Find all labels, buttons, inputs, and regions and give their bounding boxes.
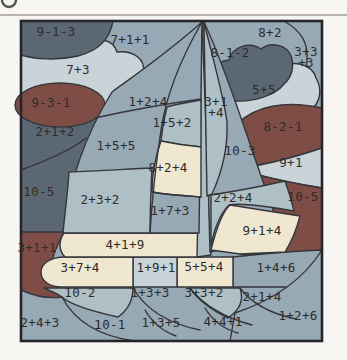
region-label-2+3+2: 2+3+2 — [80, 192, 119, 207]
region-label-1+2+6: 1+2+6 — [278, 308, 317, 323]
region-label-9+1+4: 9+1+4 — [242, 223, 281, 238]
page-badge-icon — [2, 0, 16, 7]
region-label-1+5+5: 1+5+5 — [96, 138, 135, 153]
region-label-3+7+4: 3+7+4 — [60, 260, 99, 275]
region-label-3+3+2: 3+3+2 — [184, 285, 223, 300]
region-label-10-2: 10-2 — [64, 285, 95, 300]
region-label-10-1: 10-1 — [94, 317, 125, 332]
region-label-2+1+4: 2+1+4 — [242, 289, 281, 304]
region-label-1+3+3: 1+3+3 — [130, 285, 169, 300]
region-label-7+3: 7+3 — [66, 62, 89, 77]
region-label-10-5: 10-5 — [23, 184, 54, 199]
region-label-4+1+9: 4+1+9 — [105, 237, 144, 252]
region-label-9-3-1: 9-3-1 — [31, 95, 70, 110]
region-label-1+5+2: 1+5+2 — [152, 115, 191, 130]
region-label-8+2: 8+2 — [258, 25, 281, 40]
region-label-5+5+4: 5+5+4 — [184, 259, 223, 274]
region-label-1+3+5: 1+3+5 — [141, 315, 180, 330]
region-label-1+7+3: 1+7+3 — [150, 203, 189, 218]
region-label-10-5: 10-5 — [287, 189, 318, 204]
region-label-8-2-1: 8-2-1 — [263, 119, 302, 134]
region-label-1+4+6: 1+4+6 — [256, 260, 295, 275]
region-label-2+2+4: 2+2+4 — [213, 190, 252, 205]
region-label-8-1-2: 8-1-2 — [210, 45, 249, 60]
region-label-3+1+1: 3+1+1 — [17, 240, 56, 255]
region-label-9+1: 9+1 — [279, 155, 302, 170]
worksheet-page: 9-1-37+1+18+23+3+38-1-27+35+59-3-13+1+41… — [0, 0, 347, 360]
region-label-8+2+4: 8+2+4 — [148, 160, 187, 175]
region-label-2+4+3: 2+4+3 — [20, 315, 59, 330]
coloring-puzzle-canvas: 9-1-37+1+18+23+3+38-1-27+35+59-3-13+1+41… — [0, 0, 347, 360]
region-label-4+4+1: 4+4+1 — [203, 314, 242, 329]
region-label-1+9+1: 1+9+1 — [136, 260, 175, 275]
region-label-7+1+1: 7+1+1 — [110, 32, 149, 47]
region-label-1+2+4: 1+2+4 — [128, 94, 167, 109]
region-label-2+1+2: 2+1+2 — [35, 124, 74, 139]
region-label-10-3: 10-3 — [224, 143, 255, 158]
region-label-9-1-3: 9-1-3 — [36, 24, 75, 39]
region-label-5+5: 5+5 — [252, 82, 275, 97]
